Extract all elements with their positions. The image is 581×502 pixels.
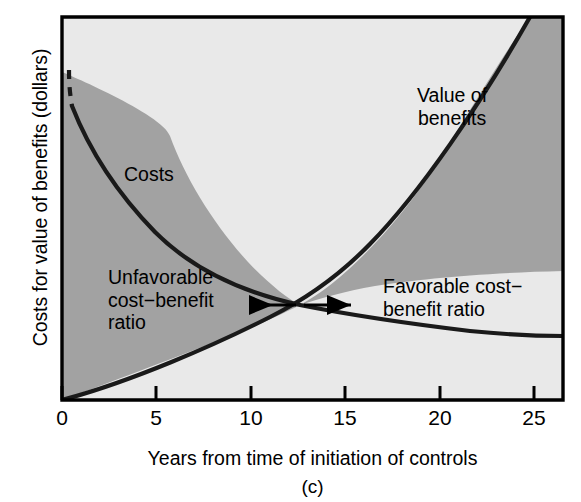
x-tick-label-10: 10 — [231, 406, 271, 430]
unfavorable-cost-benefit-ratio-label: Unfavorable cost−benefit ratio — [108, 266, 214, 334]
x-tick-label-25: 25 — [514, 406, 554, 430]
favorable-cost-benefit-ratio-label: Favorable cost− benefit ratio — [383, 275, 522, 320]
x-tick-label-20: 20 — [420, 406, 460, 430]
y-axis-title: Costs for value of benefits (dollars) — [29, 0, 52, 398]
x-tick-label-5: 5 — [136, 406, 176, 430]
cost-benefit-chart — [0, 0, 581, 502]
x-tick-label-15: 15 — [325, 406, 365, 430]
figure-caption: (c) — [62, 476, 563, 498]
x-axis-title: Years from time of initiation of control… — [62, 447, 563, 470]
costs-label: Costs — [124, 163, 174, 186]
figure-panel-c: 0 5 10 15 20 25 Costs Value of benefits … — [0, 0, 581, 502]
value-of-benefits-label: Value of benefits — [417, 84, 487, 129]
x-tick-label-0: 0 — [42, 406, 82, 430]
